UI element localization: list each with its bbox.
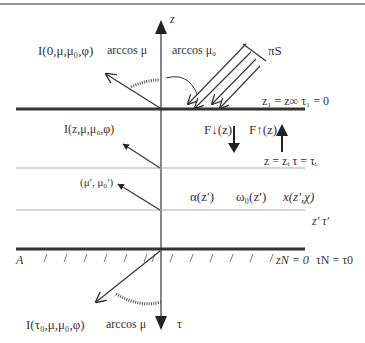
bottom-boundary-z-label: zN = 0	[276, 254, 309, 266]
flux-down-label: F↓(z)	[204, 123, 232, 136]
z-axis-arrow-icon	[155, 20, 167, 34]
albedo-label: ω₀(z′)	[236, 190, 266, 203]
surface-albedo-label: A	[16, 254, 23, 266]
surface-hatching	[44, 254, 273, 262]
interior-radiance-label: I(z,μ,μ₀,φ)	[64, 123, 114, 135]
extinction-label: α(z′)	[190, 190, 214, 203]
solar-angle-arc	[166, 77, 197, 94]
bottom-radiance-label: I(τ₀,μ,μ₀,φ)	[26, 318, 84, 331]
z-axis-label: z	[170, 13, 175, 25]
level-label: z = zᵢ τ = τᵢ	[264, 155, 317, 167]
interior-radiance-arrow	[123, 144, 160, 168]
solar-angle-label: arccos μ₀	[172, 44, 216, 56]
flux-down-arrow-icon	[228, 143, 240, 153]
bottom-boundary-tau-label: τN = τ0	[316, 254, 353, 266]
phase-function-label: x(z′,χ)	[283, 190, 314, 203]
tau-axis-label: τ	[177, 318, 182, 330]
layer-label: z′ τ′	[312, 215, 329, 227]
top-radiance-label: I(0,μ,μ₀,φ)	[38, 44, 93, 57]
flux-up-arrow-icon	[276, 124, 288, 136]
bottom-zenith-angle-label: arccos μ	[106, 318, 146, 330]
tau-axis-arrow-icon	[155, 316, 167, 330]
solar-flux-label: πS	[268, 44, 282, 57]
scattered-radiance-arrow	[118, 184, 160, 210]
top-boundary-label: z₁ = z∞ τ₁ = 0	[262, 95, 329, 107]
top-radiance-arrow	[106, 74, 160, 108]
bottom-zenith-arc	[116, 294, 161, 304]
solar-flux-wavefront	[243, 44, 266, 61]
scatter-direction-label: (μ′, μ₀′)	[80, 177, 113, 188]
top-zenith-angle-label: arccos μ	[107, 44, 147, 56]
flux-up-label: F↑(z)	[249, 123, 277, 136]
top-zenith-arc	[131, 80, 159, 87]
